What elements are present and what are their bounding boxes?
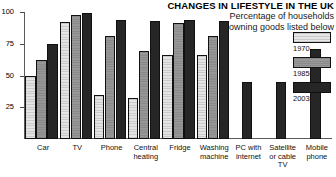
bar [219, 21, 229, 139]
bar [197, 55, 207, 139]
bar-group [197, 8, 231, 139]
bar-group [163, 8, 197, 139]
y-axis-tick-50: 50 [6, 72, 14, 80]
bar-group [231, 8, 265, 139]
dark-solid-swatch [293, 82, 331, 93]
x-axis-label-line: heating [126, 153, 166, 162]
bar [82, 13, 92, 139]
bar [47, 44, 57, 139]
bar-group [94, 8, 128, 139]
legend-item-1985[interactable]: 1985 [293, 57, 333, 81]
bar [25, 76, 35, 140]
bar [60, 22, 70, 139]
y-axis-tick-labels: 255075100 [0, 8, 20, 139]
x-axis-label: Mobilephone [297, 144, 336, 161]
light-hatched-swatch [293, 32, 331, 43]
bar [162, 55, 172, 139]
legend-label: 1970 [293, 43, 333, 56]
bar [139, 51, 149, 139]
bar [94, 95, 104, 139]
legend-label: 2003 [293, 93, 333, 106]
bar [173, 23, 183, 139]
bar [208, 36, 218, 139]
bar [150, 21, 160, 139]
x-axis-category-labels: CarTVPhoneCentralheatingFridgeWashingmac… [26, 144, 334, 177]
bar-group [26, 8, 60, 139]
bar [276, 82, 286, 139]
plot-area: 255075100 [0, 8, 336, 143]
bar [36, 60, 46, 139]
y-axis-tick-25: 25 [6, 103, 14, 111]
y-axis-tick-100: 100 [1, 8, 14, 16]
x-axis-label-line: phone [297, 153, 336, 162]
bar-group [129, 8, 163, 139]
bars-container [26, 8, 334, 139]
chart-legend: 197019852003 [293, 32, 333, 107]
legend-label: 1985 [293, 68, 333, 81]
bar [105, 36, 115, 139]
bar [128, 98, 138, 139]
bar [184, 20, 194, 139]
bar [242, 82, 252, 139]
y-axis-tick-75: 75 [6, 40, 14, 48]
lifestyle-bar-chart: CHANGES IN LIFESTYLE IN THE UK Percentag… [0, 0, 336, 177]
bar [116, 20, 126, 139]
x-axis-label-line: TV [263, 161, 303, 170]
legend-item-1970[interactable]: 1970 [293, 32, 333, 56]
bar-group [60, 8, 94, 139]
bar [71, 15, 81, 139]
gray-hatched-swatch [293, 57, 331, 68]
legend-item-2003[interactable]: 2003 [293, 82, 333, 106]
